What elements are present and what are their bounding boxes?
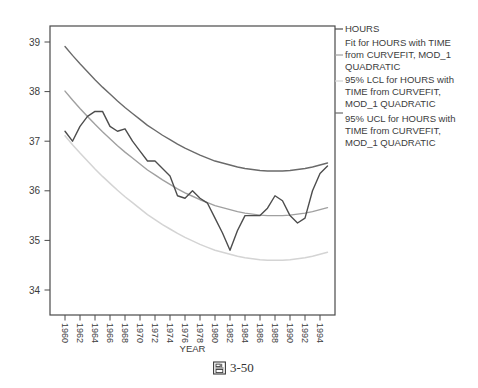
legend-entry-line: TIME from CURVEFIT, xyxy=(345,125,456,137)
x-tick-label: 1988 xyxy=(270,323,280,343)
x-tick-label: 1964 xyxy=(90,323,100,343)
x-tick-label: 1976 xyxy=(180,323,190,343)
series-ucl-line xyxy=(65,46,328,170)
x-tick-label: 1966 xyxy=(105,323,115,343)
x-axis-title: YEAR xyxy=(180,343,206,354)
x-tick-label: 1960 xyxy=(60,323,70,343)
x-tick-label: 1968 xyxy=(120,323,130,343)
legend-entry-fit: Fit for HOURS with TIMEfrom CURVEFIT, MO… xyxy=(345,37,451,73)
legend-entry-lcl: 95% LCL for HOURS withTIME from CURVEFIT… xyxy=(345,74,454,110)
legend-entry-line: MOD_1 QUADRATIC xyxy=(345,98,454,110)
x-tick-label: 1992 xyxy=(300,323,310,343)
y-tick-label: 39 xyxy=(29,37,41,48)
legend-entry-hours: HOURS xyxy=(345,23,379,35)
legend-entry-line: Fit for HOURS with TIME xyxy=(345,37,451,49)
series-hours-line xyxy=(65,111,328,250)
x-tick-label: 1982 xyxy=(225,323,235,343)
x-tick-label: 1974 xyxy=(165,323,175,343)
figure-caption: 3-50 xyxy=(213,360,254,376)
x-tick-label: 1972 xyxy=(150,323,160,343)
y-tick-label: 35 xyxy=(29,235,41,246)
y-tick-label: 34 xyxy=(29,285,41,296)
legend-entry-line: QUADRATIC xyxy=(345,61,451,73)
x-tick-label: 1984 xyxy=(240,323,250,343)
x-tick-label: 1970 xyxy=(135,323,145,343)
x-tick-label: 1994 xyxy=(315,323,325,343)
x-tick-label: 1962 xyxy=(75,323,85,343)
y-tick-label: 37 xyxy=(29,136,41,147)
legend-entry-ucl: 95% UCL for HOURS withTIME from CURVEFIT… xyxy=(345,113,456,149)
x-tick-label: 1980 xyxy=(210,323,220,343)
legend-entry-line: HOURS xyxy=(345,23,379,35)
figure: 3435363738391960196219641966196819701972… xyxy=(0,0,478,388)
figure-caption-number: 3-50 xyxy=(230,360,254,376)
y-tick-label: 38 xyxy=(29,86,41,97)
figure-cjk-glyph xyxy=(213,361,226,375)
y-tick-label: 36 xyxy=(29,185,41,196)
x-tick-label: 1986 xyxy=(255,323,265,343)
x-tick-label: 1978 xyxy=(195,323,205,343)
x-tick-label: 1990 xyxy=(285,323,295,343)
legend-entry-line: 95% LCL for HOURS with xyxy=(345,74,454,86)
legend-entry-line: from CURVEFIT, MOD_1 xyxy=(345,49,451,61)
legend-entry-line: TIME from CURVEFIT, xyxy=(345,86,454,98)
legend-entry-line: 95% UCL for HOURS with xyxy=(345,113,456,125)
legend-entry-line: MOD_1 QUADRATIC xyxy=(345,137,456,149)
